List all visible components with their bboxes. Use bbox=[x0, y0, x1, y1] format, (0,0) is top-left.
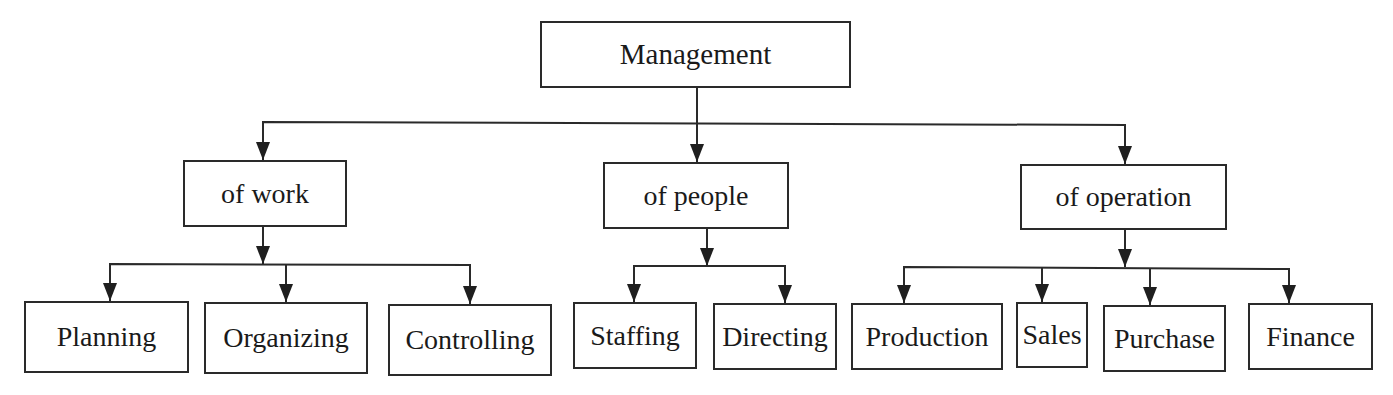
node-label: Staffing bbox=[590, 322, 680, 350]
node-organizing: Organizing bbox=[204, 302, 368, 374]
node-purchase: Purchase bbox=[1103, 305, 1226, 372]
node-management: Management bbox=[540, 21, 851, 88]
of-operation-connectors bbox=[904, 230, 1289, 305]
node-label: Sales bbox=[1022, 321, 1081, 349]
node-directing: Directing bbox=[713, 303, 837, 370]
node-label: Purchase bbox=[1114, 325, 1215, 353]
node-of-operation: of operation bbox=[1020, 164, 1227, 230]
node-finance: Finance bbox=[1248, 303, 1373, 370]
level1-arrowheads bbox=[256, 142, 1132, 164]
node-label: Controlling bbox=[405, 326, 534, 354]
node-sales: Sales bbox=[1016, 302, 1088, 368]
level1-bus bbox=[263, 122, 1125, 164]
of-work-connectors bbox=[110, 227, 470, 304]
node-label: Organizing bbox=[223, 324, 348, 352]
node-label: of people bbox=[644, 182, 749, 210]
node-label: of operation bbox=[1055, 183, 1191, 211]
node-label: Directing bbox=[722, 323, 828, 351]
node-label: Production bbox=[866, 323, 989, 351]
node-planning: Planning bbox=[24, 301, 189, 373]
node-controlling: Controlling bbox=[388, 304, 552, 376]
node-label: Management bbox=[620, 40, 771, 69]
node-of-work: of work bbox=[183, 160, 347, 227]
node-staffing: Staffing bbox=[573, 302, 697, 369]
node-label: Finance bbox=[1266, 323, 1355, 351]
management-hierarchy-diagram: Management of work of people of operatio… bbox=[0, 0, 1393, 395]
of-people-connectors bbox=[634, 229, 785, 303]
node-label: Planning bbox=[57, 323, 157, 351]
node-production: Production bbox=[851, 303, 1003, 370]
node-of-people: of people bbox=[603, 162, 789, 229]
node-label: of work bbox=[221, 180, 309, 208]
